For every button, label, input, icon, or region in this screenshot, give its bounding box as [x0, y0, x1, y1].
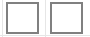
bottom-guide-line	[0, 35, 90, 36]
checkbox-unchecked-second[interactable]	[50, 2, 83, 34]
middle-guide-line	[45, 0, 46, 37]
left-guide-line	[2, 0, 3, 37]
checkbox-inner-fill-first	[8, 4, 37, 32]
checkbox-unchecked-first[interactable]	[6, 2, 39, 34]
checkbox-pair-canvas	[0, 0, 90, 37]
checkbox-inner-fill-second	[52, 4, 81, 32]
